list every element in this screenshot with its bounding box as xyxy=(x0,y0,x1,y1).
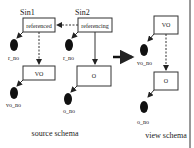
svg-text:vo_no: vo_no xyxy=(6,102,21,108)
schema-diagram: Sin1 referenced Sin2 referencing r_no r_… xyxy=(0,0,194,148)
sin1-title: Sin1 xyxy=(20,8,35,17)
referenced-label: referenced xyxy=(26,23,51,29)
svg-text:o_no: o_no xyxy=(63,108,75,114)
sin2-title: Sin2 xyxy=(75,8,90,17)
svg-text:VO: VO xyxy=(35,71,44,77)
svg-text:O: O xyxy=(164,78,169,84)
svg-text:O: O xyxy=(92,73,97,79)
r-no-label-2: r_no xyxy=(63,55,74,61)
r-no-dot-1 xyxy=(10,39,18,51)
svg-text:o_no: o_no xyxy=(137,119,149,125)
svg-text:VO: VO xyxy=(162,22,171,28)
r-no-label-1: r_no xyxy=(8,55,19,61)
r-no-dot-2 xyxy=(65,39,73,51)
view-schema-caption: view schema xyxy=(145,131,187,140)
source-schema-caption: source schema xyxy=(32,129,79,138)
svg-text:vo_no: vo_no xyxy=(137,60,152,66)
referencing-label: referencing xyxy=(81,23,108,29)
